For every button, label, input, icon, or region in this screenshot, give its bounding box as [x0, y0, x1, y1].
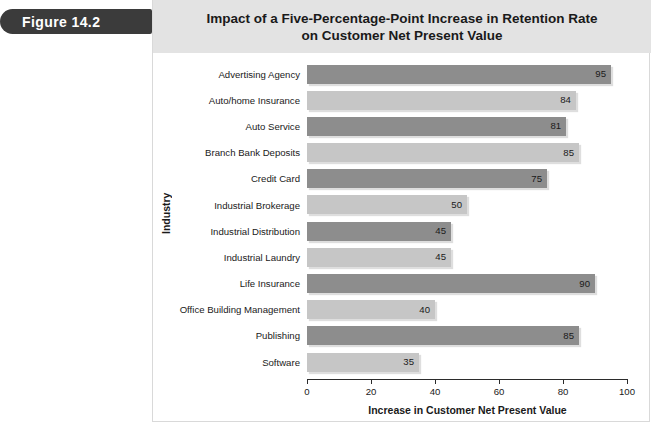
bar-row: Software35 — [175, 349, 651, 375]
bar-rows: Advertising Agency95Auto/home Insurance8… — [175, 61, 651, 379]
bar-value-label: 40 — [419, 305, 430, 315]
bar: 50 — [307, 195, 467, 214]
x-axis-tick — [627, 379, 628, 384]
bar-track: 35 — [307, 349, 627, 375]
x-axis-tick-label: 0 — [304, 386, 309, 397]
category-label: Branch Bank Deposits — [175, 147, 307, 158]
bar-track: 45 — [307, 218, 627, 244]
category-label: Software — [175, 357, 307, 368]
bar-value-label: 90 — [579, 279, 590, 289]
x-axis-tick — [307, 379, 308, 384]
bar-value-label: 45 — [435, 252, 446, 262]
bar: 95 — [307, 65, 611, 84]
category-label: Industrial Laundry — [175, 252, 307, 263]
x-axis-tick-label: 60 — [494, 386, 505, 397]
category-label: Publishing — [175, 330, 307, 341]
bar-row: Publishing85 — [175, 323, 651, 349]
x-axis-tick-label: 40 — [430, 386, 441, 397]
bar-value-label: 85 — [563, 331, 574, 341]
bar: 75 — [307, 169, 547, 188]
x-axis-tick — [371, 379, 372, 384]
bar-value-label: 84 — [560, 95, 571, 105]
category-label: Credit Card — [175, 173, 307, 184]
bar-row: Advertising Agency95 — [175, 61, 651, 87]
x-axis-title: Increase in Customer Net Present Value — [307, 404, 628, 416]
bar: 85 — [307, 326, 579, 345]
bar-track: 75 — [307, 166, 627, 192]
bar-track: 85 — [307, 323, 627, 349]
bar-value-label: 45 — [435, 226, 446, 236]
x-axis-tick-label: 80 — [558, 386, 569, 397]
bar: 40 — [307, 300, 435, 319]
x-axis-line — [307, 379, 628, 380]
bar-track: 95 — [307, 61, 627, 87]
category-label: Industrial Brokerage — [175, 200, 307, 211]
x-axis-tick — [499, 379, 500, 384]
bar: 84 — [307, 91, 576, 110]
category-label: Auto Service — [175, 121, 307, 132]
bar: 81 — [307, 117, 566, 136]
bar: 45 — [307, 222, 451, 241]
bar-row: Industrial Distribution45 — [175, 218, 651, 244]
chart-panel: Impact of a Five-Percentage-Point Increa… — [152, 0, 650, 422]
bar-track: 81 — [307, 113, 627, 139]
bar-value-label: 35 — [403, 357, 414, 367]
category-label: Industrial Distribution — [175, 226, 307, 237]
y-axis-title: Industry — [158, 168, 174, 258]
chart-title-line-1: Impact of a Five-Percentage-Point Increa… — [207, 10, 598, 27]
bar-row: Auto Service81 — [175, 113, 651, 139]
bar-track: 50 — [307, 192, 627, 218]
bar-row: Industrial Laundry45 — [175, 244, 651, 270]
bar-row: Office Building Management40 — [175, 297, 651, 323]
x-axis-tick — [563, 379, 564, 384]
category-label: Office Building Management — [175, 304, 307, 315]
category-label: Advertising Agency — [175, 69, 307, 80]
bar-track: 40 — [307, 297, 627, 323]
figure-badge-label: Figure 14.2 — [22, 14, 100, 30]
chart-title-line-2: on Customer Net Present Value — [207, 27, 598, 44]
bar-row: Auto/home Insurance84 — [175, 87, 651, 113]
category-label: Auto/home Insurance — [175, 95, 307, 106]
bar-track: 90 — [307, 271, 627, 297]
bar-value-label: 75 — [531, 174, 542, 184]
bar-track: 84 — [307, 87, 627, 113]
bar: 90 — [307, 274, 595, 293]
bar-row: Branch Bank Deposits85 — [175, 140, 651, 166]
chart-title: Impact of a Five-Percentage-Point Increa… — [197, 10, 608, 44]
category-label: Life Insurance — [175, 278, 307, 289]
x-axis-tick-label: 20 — [366, 386, 377, 397]
bar: 45 — [307, 248, 451, 267]
bar: 85 — [307, 143, 579, 162]
bar-track: 85 — [307, 140, 627, 166]
bar-row: Industrial Brokerage50 — [175, 192, 651, 218]
bar-value-label: 85 — [563, 148, 574, 158]
bar-row: Credit Card75 — [175, 166, 651, 192]
bar-value-label: 50 — [451, 200, 462, 210]
bar-value-label: 81 — [551, 121, 562, 131]
chart-title-band: Impact of a Five-Percentage-Point Increa… — [153, 0, 651, 53]
bar: 35 — [307, 353, 419, 372]
bar-track: 45 — [307, 244, 627, 270]
bar-value-label: 95 — [595, 69, 606, 79]
plot-region: Industry Advertising Agency95Auto/home I… — [153, 53, 651, 422]
figure-badge: Figure 14.2 — [0, 9, 152, 34]
x-axis-tick-label: 100 — [619, 386, 635, 397]
bar-row: Life Insurance90 — [175, 271, 651, 297]
x-axis-tick — [435, 379, 436, 384]
